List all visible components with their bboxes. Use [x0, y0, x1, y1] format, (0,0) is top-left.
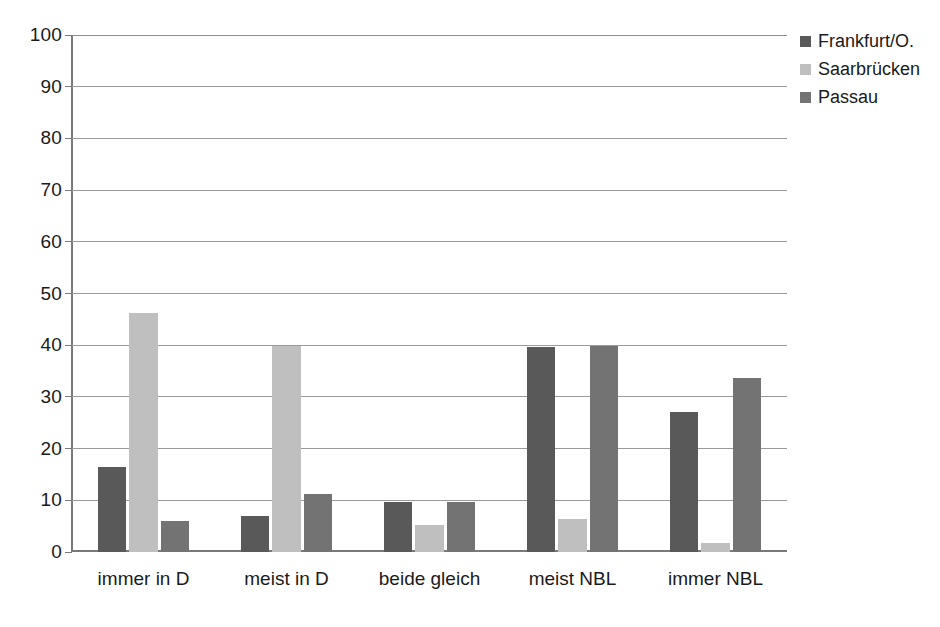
bar [447, 502, 475, 552]
bar [384, 502, 412, 552]
y-tick-label: 80 [6, 128, 62, 147]
bar-chart: 1009080706050403020100 immer in Dmeist i… [0, 0, 940, 627]
legend-item[interactable]: Saarbrücken [800, 56, 940, 82]
y-tick-label: 90 [6, 77, 62, 96]
x-tick-label: meist in D [215, 568, 358, 590]
y-axis: 1009080706050403020100 [0, 0, 62, 627]
y-tick-mark [65, 35, 72, 36]
bar-group [215, 35, 358, 552]
x-axis: immer in Dmeist in Dbeide gleichmeist NB… [72, 568, 787, 602]
x-tick-label: meist NBL [501, 568, 644, 590]
bar [129, 313, 157, 552]
y-tick-label: 30 [6, 387, 62, 406]
legend-label: Frankfurt/O. [818, 31, 914, 51]
y-tick-mark [65, 138, 72, 139]
legend-swatch-passau [800, 92, 811, 103]
y-tick-label: 0 [6, 542, 62, 561]
y-tick-label: 70 [6, 180, 62, 199]
y-tick-mark [65, 448, 72, 449]
legend-swatch-saarbruecken [800, 64, 811, 75]
y-tick-label: 50 [6, 284, 62, 303]
bar [733, 378, 761, 552]
legend-label: Passau [818, 87, 878, 107]
bar [701, 543, 729, 552]
y-tick-mark [65, 396, 72, 397]
y-tick-mark [65, 500, 72, 501]
y-tick-mark [65, 293, 72, 294]
bar [527, 347, 555, 552]
y-tick-mark [65, 345, 72, 346]
legend-item[interactable]: Frankfurt/O. [800, 28, 940, 54]
legend-label: Saarbrücken [818, 59, 920, 79]
x-tick-label: beide gleich [358, 568, 501, 590]
x-tick-label: immer in D [72, 568, 215, 590]
y-tick-label: 20 [6, 439, 62, 458]
plot-area [72, 35, 787, 552]
x-tick-label: immer NBL [644, 568, 787, 590]
chart-legend: Frankfurt/O.SaarbrückenPassau [800, 28, 940, 112]
bar [98, 467, 126, 552]
y-tick-label: 60 [6, 232, 62, 251]
y-tick-mark [65, 552, 72, 553]
y-tick-label: 10 [6, 490, 62, 509]
bar [590, 346, 618, 552]
bar [670, 412, 698, 552]
y-tick-mark [65, 86, 72, 87]
bar [304, 494, 332, 552]
bar-group [501, 35, 644, 552]
bar-group [644, 35, 787, 552]
bar [415, 525, 443, 552]
bar [161, 521, 189, 552]
bar [558, 519, 586, 552]
y-tick-mark [65, 241, 72, 242]
legend-item[interactable]: Passau [800, 84, 940, 110]
y-tick-label: 40 [6, 335, 62, 354]
y-tick-mark [65, 190, 72, 191]
legend-swatch-frankfurt [800, 36, 811, 47]
bar-group [72, 35, 215, 552]
bar [272, 346, 300, 552]
bar [241, 516, 269, 552]
y-tick-label: 100 [6, 25, 62, 44]
bar-group [358, 35, 501, 552]
